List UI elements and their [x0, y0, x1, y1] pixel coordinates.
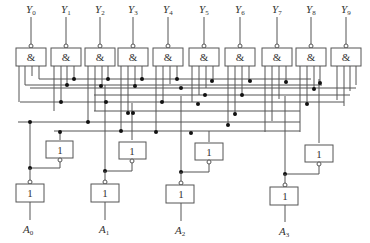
output-label-y7: Y7 — [272, 4, 282, 17]
not-gate-upper-1-symbol: 1 — [129, 146, 135, 157]
and-gate-1-symbol: & — [62, 52, 71, 63]
output-label-y9: Y9 — [341, 4, 351, 17]
output-label-y4: Y4 — [163, 4, 173, 17]
junction-dots — [28, 77, 322, 135]
output-lines — [31, 17, 346, 44]
output-label-y3: Y3 — [128, 4, 138, 17]
not-gate-upper-2-symbol: 1 — [206, 147, 212, 158]
input-label-a2: A2 — [175, 225, 185, 238]
output-label-y5: Y5 — [199, 4, 209, 17]
and-gate-3-symbol: & — [129, 52, 138, 63]
and-gate-4-symbol: & — [164, 52, 173, 63]
and-gate-8-symbol: & — [307, 52, 316, 63]
output-label-y1: Y1 — [61, 4, 71, 17]
decoder-diagram — [0, 0, 370, 243]
input-label-a0: A0 — [23, 224, 33, 237]
and-gate-2-symbol: & — [96, 52, 105, 63]
output-label-y2: Y2 — [95, 4, 105, 17]
output-bubbles — [29, 44, 348, 48]
not-gate-upper-0-symbol: 1 — [57, 145, 63, 156]
output-label-y6: Y6 — [235, 4, 245, 17]
and-gate-7-symbol: & — [273, 52, 282, 63]
not-gate-lower-2-symbol: 1 — [178, 189, 184, 200]
not-gate-lower-3-symbol: 1 — [282, 191, 288, 202]
not-gate-upper-3-symbol: 1 — [316, 149, 322, 160]
output-label-y0: Y0 — [26, 4, 36, 17]
and-gate-6-symbol: & — [236, 52, 245, 63]
and-gate-9-symbol: & — [342, 52, 351, 63]
and-gate-0-symbol: & — [27, 52, 36, 63]
output-label-y8: Y8 — [306, 4, 316, 17]
input-label-a3: A3 — [279, 226, 289, 239]
and-gate-5-symbol: & — [200, 52, 209, 63]
input-label-a1: A1 — [99, 224, 109, 237]
not-gate-lower-1-symbol: 1 — [102, 188, 108, 199]
not-gate-lower-0-symbol: 1 — [27, 188, 33, 199]
not-gates-lower — [16, 168, 298, 222]
